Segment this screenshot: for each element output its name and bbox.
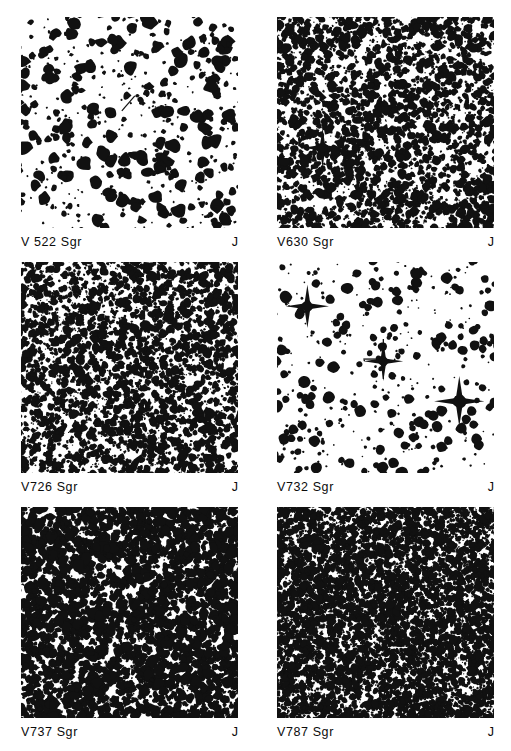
star-name-label-3: V726 Sgr [21,480,78,494]
panel-caption-2: V630 Sgr J [277,231,494,257]
star-field-image-1 [21,17,238,228]
star-field-image-6 [277,507,494,718]
band-label-4: J [488,480,494,494]
star-field-image-5 [21,507,238,718]
band-label-1: J [232,235,238,249]
star-name-label-4: V732 Sgr [277,480,334,494]
chart-panel-6: V787 Sgr J [277,507,494,747]
star-name-label-2: V630 Sgr [277,235,334,249]
panel-caption-1: V 522 Sgr J [21,231,238,257]
chart-panel-1: V 522 Sgr J [21,17,238,257]
band-label-5: J [232,725,238,739]
figure-sheet: V 522 Sgr J V630 Sgr J V726 Sgr J V732 S… [0,0,511,751]
band-label-3: J [232,480,238,494]
chart-panel-3: V726 Sgr J [21,262,238,502]
band-label-2: J [488,235,494,249]
chart-panel-2: V630 Sgr J [277,17,494,257]
chart-panel-5: V737 Sgr J [21,507,238,747]
chart-panel-4: V732 Sgr J [277,262,494,502]
panel-caption-3: V726 Sgr J [21,476,238,502]
band-label-6: J [488,725,494,739]
panel-caption-4: V732 Sgr J [277,476,494,502]
star-field-image-4 [277,262,494,473]
panel-caption-6: V787 Sgr J [277,721,494,747]
star-field-image-2 [277,17,494,228]
star-name-label-1: V 522 Sgr [21,235,82,249]
star-name-label-6: V787 Sgr [277,725,334,739]
star-field-image-3 [21,262,238,473]
star-name-label-5: V737 Sgr [21,725,78,739]
panel-caption-5: V737 Sgr J [21,721,238,747]
